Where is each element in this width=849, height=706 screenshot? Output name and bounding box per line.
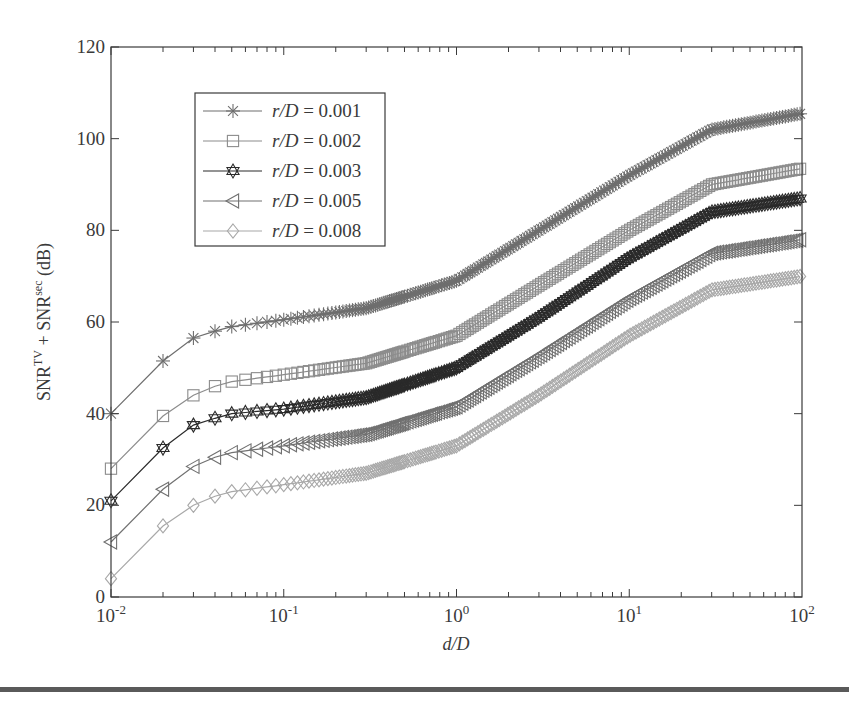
y-tick-label: 0 (96, 586, 106, 607)
x-tick-label: 10-1 (269, 602, 299, 626)
y-axis-tick-labels: 020406080100120 (77, 36, 106, 607)
y-tick-label: 100 (77, 128, 106, 149)
legend-label: r/D = 0.005 (272, 190, 361, 211)
x-axis-tick-labels: 10-210-1100101102 (96, 602, 815, 626)
legend-label: r/D = 0.001 (272, 100, 361, 121)
y-tick-label: 120 (77, 36, 106, 57)
y-tick-label: 80 (86, 219, 105, 240)
x-tick-label: 10-2 (96, 602, 126, 626)
legend: r/D = 0.001r/D = 0.002r/D = 0.003r/D = 0… (195, 93, 385, 246)
x-tick-label: 101 (617, 602, 643, 626)
x-axis-label: d/D (443, 634, 470, 654)
chart: 020406080100120 10-210-1100101102 d/D SN… (0, 0, 849, 706)
legend-label: r/D = 0.002 (272, 130, 361, 151)
legend-label: r/D = 0.008 (272, 220, 361, 241)
x-tick-label: 100 (444, 602, 470, 626)
page-divider-rule (0, 687, 849, 692)
y-tick-label: 40 (86, 403, 105, 424)
y-tick-label: 60 (86, 311, 105, 332)
x-tick-label: 102 (789, 602, 815, 626)
legend-label: r/D = 0.003 (272, 160, 361, 181)
y-tick-label: 20 (86, 494, 105, 515)
series-5 (105, 269, 805, 585)
y-axis-label: SNRTV + SNRsec (dB) (31, 243, 55, 401)
svg-text:SNRTV + SNRsec (dB): SNRTV + SNRsec (dB) (31, 243, 55, 401)
